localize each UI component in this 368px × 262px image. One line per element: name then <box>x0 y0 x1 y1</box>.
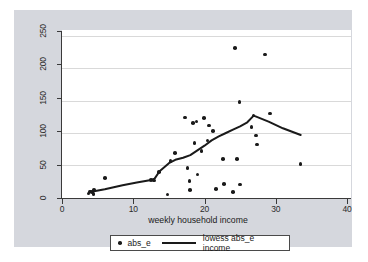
y-axis-tick-label: 50 <box>38 154 48 176</box>
graph-region: 050100150200250 010203040 weekly househo… <box>14 10 352 247</box>
y-axis-tick-label: 100 <box>38 120 48 142</box>
y-axis-tick <box>57 64 62 65</box>
scatter-point <box>188 188 192 192</box>
scatter-point <box>186 166 190 170</box>
scatter-point <box>157 170 161 174</box>
y-axis-tick <box>57 98 62 99</box>
scatter-point <box>169 159 173 163</box>
x-axis-line <box>61 198 351 199</box>
y-axis-tick-label: 0 <box>38 187 48 209</box>
legend-marker-icon <box>118 241 122 245</box>
scatter-point <box>202 116 206 120</box>
scatter-point <box>231 190 235 194</box>
scatter-point <box>103 176 107 180</box>
scatter-point <box>152 179 156 183</box>
scatter-point <box>92 192 96 196</box>
chart-screenshot: 050100150200250 010203040 weekly househo… <box>0 0 368 262</box>
x-axis-tick-label: 40 <box>337 204 357 214</box>
chart-legend: abs_e lowess abs_e income <box>110 235 290 251</box>
y-axis-tick <box>57 165 62 166</box>
x-axis-tick-label: 20 <box>195 204 215 214</box>
scatter-point <box>193 141 197 145</box>
y-axis-tick-label: 150 <box>38 87 48 109</box>
x-axis-tick-label: 10 <box>123 204 143 214</box>
scatter-point <box>173 151 177 155</box>
y-axis-tick-label: 200 <box>38 53 48 75</box>
legend-label-lowess: lowess abs_e income <box>203 233 282 253</box>
scatter-point <box>250 125 254 129</box>
scatter-point <box>238 100 242 104</box>
x-axis-tick-label: 0 <box>52 204 72 214</box>
y-axis-tick <box>57 131 62 132</box>
y-axis-tick-label: 250 <box>38 20 48 42</box>
scatter-point <box>214 187 218 191</box>
x-axis-tick-label: 30 <box>266 204 286 214</box>
legend-label-abs-e: abs_e <box>128 238 151 248</box>
scatter-point <box>211 129 215 133</box>
x-axis-title: weekly household income <box>14 215 368 225</box>
scatter-point <box>233 46 237 50</box>
scatter-point <box>235 157 239 161</box>
scatter-point <box>255 143 259 147</box>
y-axis-tick <box>57 31 62 32</box>
scatter-point <box>207 124 211 128</box>
y-axis-line <box>61 31 62 199</box>
scatter-point <box>221 157 225 161</box>
legend-line-icon <box>162 242 196 244</box>
scatter-point <box>222 182 226 186</box>
